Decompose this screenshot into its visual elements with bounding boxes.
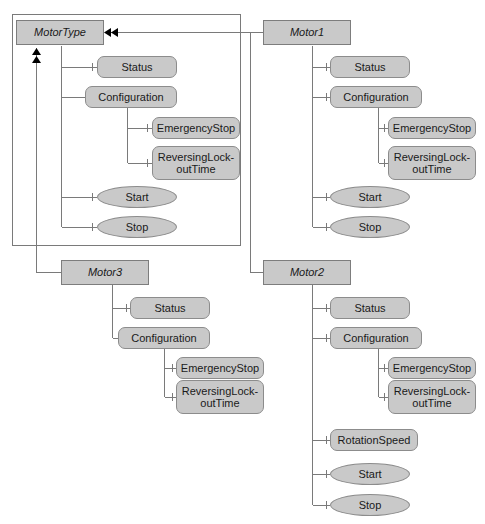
node-motor2-stop[interactable]: Stop: [330, 494, 410, 516]
node-motor1-stop[interactable]: Stop: [330, 216, 410, 238]
node-motor2-configuration-label: Configuration: [340, 332, 411, 344]
node-motor1-status-label: Status: [351, 61, 388, 73]
node-motortype-reversinglockouttime-label: ReversingLock- outTime: [155, 151, 237, 176]
node-motor1-label: Motor1: [287, 26, 327, 38]
node-motor3-configuration[interactable]: Configuration: [118, 327, 210, 349]
node-motor2-rotationspeed-label: RotationSpeed: [335, 434, 414, 446]
node-motor2-start[interactable]: Start: [330, 463, 410, 485]
node-motortype-label: MotorType: [31, 26, 89, 38]
node-motor1-stop-label: Stop: [356, 221, 385, 233]
node-motor2-configuration[interactable]: Configuration: [330, 327, 422, 349]
node-motor1-emergencystop[interactable]: EmergencyStop: [388, 117, 476, 139]
relation-motor3-to-motortype: [37, 48, 62, 273]
node-motortype[interactable]: MotorType: [16, 20, 104, 45]
node-motor2-label: Motor2: [287, 266, 327, 278]
node-motor2-start-label: Start: [355, 468, 384, 480]
node-motor3-reversinglockouttime-label: ReversingLock- outTime: [179, 385, 261, 410]
node-motor3-status-label: Status: [151, 302, 188, 314]
node-motor1-status[interactable]: Status: [330, 56, 410, 78]
node-motor1-start-label: Start: [355, 191, 384, 203]
diagram-canvas: MotorType Status Configuration Emergency…: [0, 0, 485, 524]
node-motortype-start-label: Start: [122, 191, 151, 203]
node-motor1-start[interactable]: Start: [330, 186, 410, 208]
node-motor2-status[interactable]: Status: [330, 297, 410, 319]
node-motor2-status-label: Status: [351, 302, 388, 314]
node-motor2-emergencystop-label: EmergencyStop: [390, 362, 474, 374]
node-motor1-reversinglockouttime[interactable]: ReversingLock- outTime: [388, 146, 476, 180]
node-motor1-configuration-label: Configuration: [340, 91, 411, 103]
arrowhead-left-outer: [104, 28, 111, 37]
node-motor1-reversinglockouttime-label: ReversingLock- outTime: [391, 151, 473, 176]
node-motor3-label: Motor3: [85, 266, 125, 278]
node-motor2-stop-label: Stop: [356, 499, 385, 511]
node-motor1[interactable]: Motor1: [263, 20, 351, 45]
node-motortype-status[interactable]: Status: [97, 56, 177, 78]
node-motor3-configuration-label: Configuration: [128, 332, 199, 344]
node-motor2-emergencystop[interactable]: EmergencyStop: [388, 357, 476, 379]
node-motortype-reversinglockouttime[interactable]: ReversingLock- outTime: [152, 146, 240, 180]
node-motor3[interactable]: Motor3: [61, 260, 149, 285]
node-motor2[interactable]: Motor2: [263, 260, 351, 285]
node-motortype-configuration-label: Configuration: [95, 91, 166, 103]
node-motor1-configuration[interactable]: Configuration: [330, 86, 422, 108]
arrowhead-up-inner: [32, 56, 41, 63]
node-motor3-emergencystop-label: EmergencyStop: [178, 362, 262, 374]
node-motortype-stop-label: Stop: [123, 221, 152, 233]
node-motor3-emergencystop[interactable]: EmergencyStop: [176, 357, 264, 379]
node-motortype-emergencystop[interactable]: EmergencyStop: [152, 117, 240, 139]
node-motortype-configuration[interactable]: Configuration: [85, 86, 177, 108]
arrowhead-left-inner: [111, 28, 118, 37]
node-motor3-reversinglockouttime[interactable]: ReversingLock- outTime: [176, 380, 264, 414]
node-motor2-reversinglockouttime-label: ReversingLock- outTime: [391, 385, 473, 410]
node-motortype-start[interactable]: Start: [97, 186, 177, 208]
node-motor2-rotationspeed[interactable]: RotationSpeed: [330, 429, 418, 451]
node-motor2-reversinglockouttime[interactable]: ReversingLock- outTime: [388, 380, 476, 414]
node-motortype-stop[interactable]: Stop: [97, 216, 177, 238]
node-motor1-emergencystop-label: EmergencyStop: [390, 122, 474, 134]
node-motor3-status[interactable]: Status: [130, 297, 210, 319]
arrowhead-up-outer: [32, 48, 41, 55]
node-motortype-emergencystop-label: EmergencyStop: [154, 122, 238, 134]
node-motortype-status-label: Status: [118, 61, 155, 73]
